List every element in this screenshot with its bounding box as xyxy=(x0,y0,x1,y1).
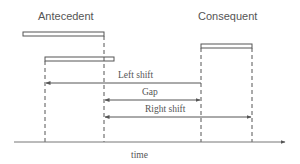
antecedent-bar-1 xyxy=(23,32,104,36)
left-shift-label: Left shift xyxy=(118,70,153,80)
antecedent-label: Antecedent xyxy=(38,10,94,22)
consequent-bar xyxy=(201,44,252,48)
time-axis-label: time xyxy=(131,150,148,160)
right-shift-label: Right shift xyxy=(145,104,186,114)
gap-label: Gap xyxy=(142,87,158,97)
consequent-label: Consequent xyxy=(198,10,257,22)
temporal-shift-diagram: Antecedent Consequent Left shift Gap Rig… xyxy=(0,0,300,164)
